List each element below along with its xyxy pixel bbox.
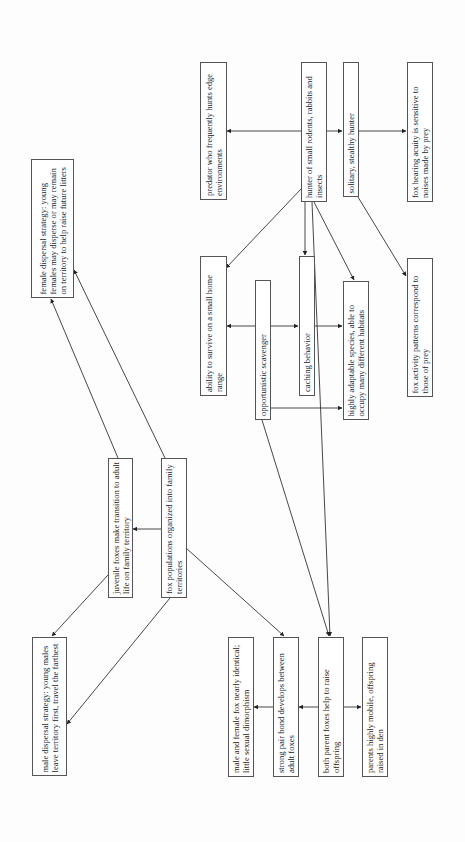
node-mobile: parents highly mobile, offspring raised … — [362, 637, 388, 777]
node-label: male dispersal strategy: young males lea… — [39, 641, 59, 772]
edge-hunter-adaptable — [314, 202, 354, 280]
node-predator: predator who frequently hunts edge envir… — [200, 62, 227, 200]
node-caching: caching behavior — [299, 256, 315, 396]
node-label: highly adaptable species, able to occupy… — [346, 285, 366, 416]
node-label: solitary, stealthy hunter — [346, 66, 356, 193]
edge-hunter-homerange — [226, 189, 301, 268]
edge-scavenger-bothparents — [262, 420, 329, 636]
edge-territories-female — [74, 270, 165, 458]
node-label: strong pair bond develops between adult … — [276, 641, 296, 773]
diagram-canvas: predator who frequently hunts edge envir… — [0, 0, 465, 842]
node-label: hunter of small rodents, rabbits and ins… — [304, 66, 324, 198]
node-label: opportunistic scavenger — [258, 284, 268, 416]
node-activity: fox activity patterns correspond to thos… — [407, 258, 433, 397]
node-label: ability to survive on a small home range — [203, 260, 223, 392]
node-homerange: ability to survive on a small home range — [200, 256, 227, 396]
node-label: caching behavior — [302, 260, 312, 392]
node-label: predator who frequently hunts edge envir… — [203, 66, 223, 196]
node-pairbond: strong pair bond develops between adult … — [273, 637, 299, 777]
node-female: female dispersal strategy: young females… — [31, 159, 74, 298]
node-label: juvenile foxes make transition to adult … — [110, 462, 130, 594]
node-label: fox activity patterns correspond to thos… — [410, 262, 430, 393]
node-hearing: fox hearing acuity is sensitive to noise… — [407, 62, 433, 202]
node-label: parents highly mobile, offspring raised … — [365, 641, 385, 773]
node-solitary: solitary, stealthy hunter — [343, 62, 359, 197]
node-territories: fox populations organized into family te… — [161, 458, 187, 598]
node-label: fox hearing acuity is sensitive to noise… — [410, 66, 430, 198]
edge-territories-male — [67, 598, 170, 724]
node-male: male dispersal strategy: young males lea… — [32, 637, 67, 776]
node-juvenile: juvenile foxes make transition to adult … — [108, 458, 133, 598]
node-label: both parent foxes help to raise offsprin… — [321, 641, 341, 773]
edge-territories-pairbond — [186, 548, 284, 636]
edge-juvenile-male — [52, 575, 108, 636]
edge-solitary-activity — [358, 197, 406, 276]
node-label: fox populations organized into family te… — [164, 462, 184, 594]
node-adaptable: highly adaptable species, able to occupy… — [343, 281, 369, 420]
node-dimorphism: male and female fox nearly identical; li… — [228, 637, 254, 777]
node-bothparents: both parent foxes help to raise offsprin… — [318, 637, 344, 777]
node-label: male and female fox nearly identical; li… — [231, 641, 251, 773]
node-scavenger: opportunistic scavenger — [255, 280, 271, 420]
node-hunter: hunter of small rodents, rabbits and ins… — [301, 62, 327, 202]
node-label: female dispersal strategy: young females… — [37, 163, 68, 294]
edge-juvenile-female — [51, 299, 118, 458]
